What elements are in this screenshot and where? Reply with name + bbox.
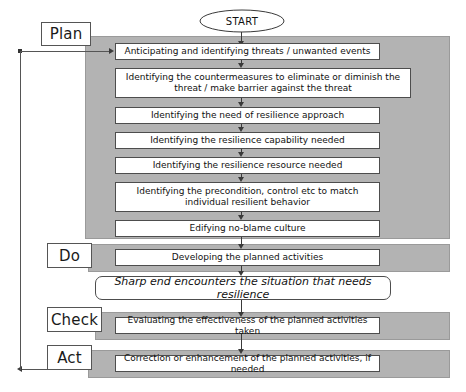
flowchart-canvas: START Plan Do Check Act Anticipating and…: [0, 0, 466, 392]
process-box-plan-3-label: Identifying the need of resilience appro…: [151, 110, 344, 121]
process-box-plan-4[interactable]: Identifying the resilience capability ne…: [115, 132, 380, 149]
process-box-plan-7-label: Edifying no-blame culture: [190, 223, 306, 234]
process-box-plan-5[interactable]: Identifying the resilience resource need…: [115, 157, 380, 174]
process-box-check-1[interactable]: Evaluating the effectiveness of the plan…: [115, 317, 380, 334]
process-box-plan-1-label: Anticipating and identifying threats / u…: [125, 46, 371, 57]
process-box-act-1[interactable]: Correction or enhancement of the planned…: [115, 355, 380, 372]
start-terminator: START: [199, 9, 285, 33]
interlude-box-label: Sharp end encounters the situation that …: [96, 275, 390, 301]
process-box-plan-7[interactable]: Edifying no-blame culture: [115, 220, 380, 237]
feedback-loop-top-segment: [20, 51, 112, 52]
feedback-loop-left-riser: [20, 51, 21, 370]
process-box-plan-2[interactable]: Identifying the countermeasures to elimi…: [115, 68, 411, 98]
process-box-check-1-label: Evaluating the effectiveness of the plan…: [120, 315, 375, 337]
process-box-act-1-label: Correction or enhancement of the planned…: [120, 353, 375, 375]
start-label: START: [199, 9, 285, 33]
process-box-plan-1[interactable]: Anticipating and identifying threats / u…: [115, 43, 380, 60]
process-box-plan-3[interactable]: Identifying the need of resilience appro…: [115, 107, 380, 124]
interlude-box-sharp-end[interactable]: Sharp end encounters the situation that …: [95, 276, 391, 300]
phase-tab-check[interactable]: Check: [47, 307, 102, 332]
phase-tab-act[interactable]: Act: [47, 345, 92, 370]
process-box-plan-6-label: Identifying the precondition, control et…: [120, 186, 375, 209]
process-box-do-1[interactable]: Developing the planned activities: [115, 249, 380, 266]
feedback-loop-top-arrowhead: [109, 48, 114, 54]
process-box-do-1-label: Developing the planned activities: [172, 252, 323, 263]
phase-tab-act-label: Act: [57, 349, 82, 367]
phase-tab-check-label: Check: [51, 311, 98, 329]
process-box-plan-5-label: Identifying the resilience resource need…: [153, 160, 343, 171]
phase-tab-plan-label: Plan: [50, 25, 83, 43]
process-box-plan-4-label: Identifying the resilience capability ne…: [150, 135, 345, 146]
phase-tab-do[interactable]: Do: [47, 243, 92, 268]
phase-tab-plan[interactable]: Plan: [41, 22, 91, 46]
phase-tab-do-label: Do: [59, 247, 80, 265]
process-box-plan-2-label: Identifying the countermeasures to elimi…: [120, 72, 406, 95]
process-box-plan-6[interactable]: Identifying the precondition, control et…: [115, 182, 380, 212]
